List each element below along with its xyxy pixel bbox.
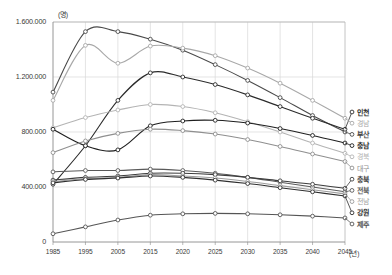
- series-line: [51, 171, 347, 190]
- y-axis-tick-label: 0: [0, 237, 46, 246]
- series-line: [51, 43, 347, 120]
- legend-item-경남[interactable]: 경남: [357, 120, 368, 127]
- series-line: [51, 71, 347, 186]
- y-axis-tick-label: 800.000: [0, 127, 46, 136]
- legend-item-제주[interactable]: 제주: [357, 221, 368, 228]
- x-axis-tick-label: 2015: [133, 248, 167, 255]
- x-axis-tick-label: 1995: [68, 248, 102, 255]
- y-axis-tick-label: 1.200.000: [0, 72, 46, 81]
- x-axis-tick-label: 2005: [101, 248, 135, 255]
- legend-item-인천[interactable]: 인천: [357, 109, 368, 116]
- series-line: [51, 212, 347, 236]
- x-axis-unit: (년): [349, 248, 359, 258]
- legend-item-부산[interactable]: 부산: [357, 131, 368, 138]
- legend-item-충남[interactable]: 충남: [357, 142, 368, 149]
- chart-root: (명) 1.600.0001.200.000800.000400.0000198…: [0, 0, 392, 275]
- x-axis-tick-label: 2035: [263, 248, 297, 255]
- x-axis-tick-label: 2025: [198, 248, 232, 255]
- line-chart-canvas: [0, 0, 392, 275]
- legend-item-충북[interactable]: 충북: [357, 176, 368, 183]
- x-axis-tick-label: 2040: [296, 248, 330, 255]
- series-line: [51, 167, 347, 193]
- legend-item-전남[interactable]: 전남: [357, 198, 368, 205]
- series-line: [51, 118, 347, 151]
- legend-item-대구[interactable]: 대구: [357, 165, 368, 172]
- x-axis-tick-label: 1985: [36, 248, 70, 255]
- y-axis-tick-label: 400.000: [0, 182, 46, 191]
- legend-item-경북[interactable]: 경북: [357, 153, 368, 160]
- series-line: [51, 173, 347, 196]
- legend-item-강원[interactable]: 강원: [357, 209, 368, 216]
- legend-item-전북[interactable]: 전북: [357, 187, 368, 194]
- x-axis-tick-label: 2030: [231, 248, 265, 255]
- y-axis-tick-label: 1.600.000: [0, 17, 46, 26]
- x-axis-tick-label: 2020: [166, 248, 200, 255]
